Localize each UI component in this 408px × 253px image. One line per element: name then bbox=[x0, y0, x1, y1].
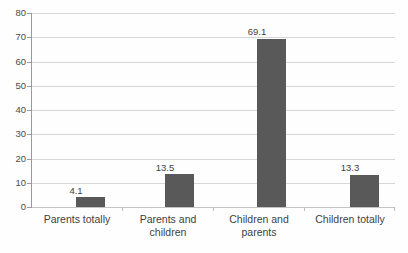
gridline-40 bbox=[31, 110, 395, 111]
y-tick-mark-10 bbox=[27, 183, 31, 184]
y-tick-mark-40 bbox=[27, 110, 31, 111]
gridline-10 bbox=[31, 183, 395, 184]
x-label-line: Parents and bbox=[123, 213, 213, 226]
x-label-line: children bbox=[123, 226, 213, 239]
x-axis-separator-4 bbox=[394, 207, 395, 211]
x-label-line: Parents totally bbox=[32, 213, 122, 226]
y-tick-label-70: 70 bbox=[4, 32, 26, 42]
gridline-80 bbox=[31, 13, 395, 14]
y-tick-mark-20 bbox=[27, 159, 31, 160]
gridline-70 bbox=[31, 37, 395, 38]
y-tick-mark-30 bbox=[27, 134, 31, 135]
gridline-50 bbox=[31, 86, 395, 87]
y-tick-label-60: 60 bbox=[4, 57, 26, 67]
y-tick-mark-50 bbox=[27, 86, 31, 87]
x-label-line: parents bbox=[214, 226, 304, 239]
y-tick-mark-70 bbox=[27, 37, 31, 38]
y-tick-label-40: 40 bbox=[4, 105, 26, 115]
y-tick-mark-0 bbox=[27, 207, 31, 208]
y-tick-mark-80 bbox=[27, 13, 31, 14]
x-label-line: Children and bbox=[214, 213, 304, 226]
y-tick-label-0: 0 bbox=[4, 202, 26, 212]
x-axis-separator-3 bbox=[304, 207, 305, 211]
plot-area bbox=[31, 13, 395, 207]
bar-children-totally bbox=[350, 175, 379, 207]
gridline-30 bbox=[31, 134, 395, 135]
bar-value-children-totally: 13.3 bbox=[320, 162, 380, 173]
x-axis-separator-2 bbox=[213, 207, 214, 211]
bar-value-parents-totally: 4.1 bbox=[46, 185, 106, 196]
y-axis-line bbox=[31, 13, 32, 208]
y-tick-mark-60 bbox=[27, 62, 31, 63]
y-tick-label-20: 20 bbox=[4, 154, 26, 164]
bar-chart: 80 70 60 50 40 30 20 10 0 4.1 13.5 69.1 … bbox=[0, 0, 408, 253]
gridline-60 bbox=[31, 62, 395, 63]
x-label-children-and-parents: Children and parents bbox=[214, 213, 304, 239]
bar-value-parents-and-children: 13.5 bbox=[135, 162, 195, 173]
bar-parents-totally bbox=[76, 197, 105, 207]
bar-value-children-and-parents: 69.1 bbox=[227, 26, 287, 37]
x-label-children-totally: Children totally bbox=[305, 213, 395, 226]
x-label-parents-and-children: Parents and children bbox=[123, 213, 213, 239]
y-tick-label-50: 50 bbox=[4, 81, 26, 91]
x-label-parents-totally: Parents totally bbox=[32, 213, 122, 226]
y-tick-label-80: 80 bbox=[4, 8, 26, 18]
y-tick-label-10: 10 bbox=[4, 178, 26, 188]
y-tick-label-30: 30 bbox=[4, 129, 26, 139]
gridline-20 bbox=[31, 159, 395, 160]
x-label-line: Children totally bbox=[305, 213, 395, 226]
bar-parents-and-children bbox=[165, 174, 194, 207]
x-axis-separator-1 bbox=[122, 207, 123, 211]
bar-children-and-parents bbox=[257, 39, 286, 207]
